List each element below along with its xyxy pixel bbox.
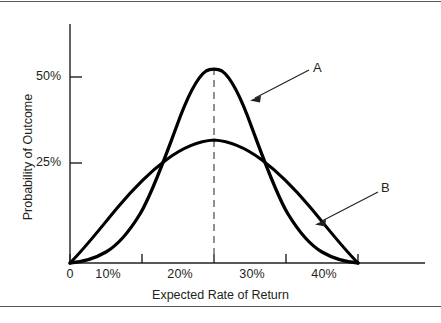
- x-tick-label-20: 20%: [161, 267, 199, 281]
- y-tick-label-50: 50%: [36, 69, 61, 83]
- x-axis-title: Expected Rate of Return: [0, 288, 441, 302]
- y-tick-label-25: 25%: [36, 155, 61, 169]
- series-label-a: A: [313, 60, 322, 75]
- series-label-b: B: [381, 180, 390, 195]
- chart-figure: 50% 25% 0 10% 20% 30% 40% Expected Rate …: [0, 0, 441, 323]
- annotation-arrow-a-head: [250, 96, 261, 103]
- annotation-arrow-b-line: [320, 192, 378, 222]
- x-tick-label-40: 40%: [305, 267, 343, 281]
- y-axis-title: Probability of Outcome: [21, 72, 35, 242]
- x-tick-label-0: 0: [63, 267, 77, 281]
- annotation-arrow-a-line: [255, 70, 309, 98]
- x-tick-label-10: 10%: [89, 267, 127, 281]
- x-tick-label-30: 30%: [233, 267, 271, 281]
